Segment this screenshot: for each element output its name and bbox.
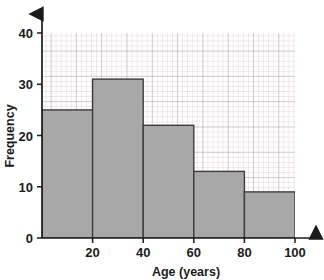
x-tick-label-60: 60 <box>187 245 201 260</box>
x-tick-label-40: 40 <box>136 245 150 260</box>
y-tick-labels: 40 30 20 10 0 <box>19 26 33 246</box>
y-tick-label-10: 10 <box>19 180 33 195</box>
histogram-figure: 40 30 20 10 0 20 40 60 80 100 Age (years… <box>0 0 324 280</box>
y-tick-label-30: 30 <box>19 77 33 92</box>
x-tick-label-100: 100 <box>284 245 306 260</box>
y-tick-label-20: 20 <box>19 129 33 144</box>
x-tick-label-80: 80 <box>237 245 251 260</box>
bar-80-100 <box>244 192 295 238</box>
bar-40-60 <box>143 125 194 238</box>
y-tick-label-40: 40 <box>19 26 33 41</box>
histogram-canvas: 40 30 20 10 0 20 40 60 80 100 Age (years… <box>0 0 324 280</box>
bar-60-80 <box>194 171 245 238</box>
x-tick-label-20: 20 <box>85 245 99 260</box>
y-axis-title: Frequency <box>3 104 17 167</box>
bar-20-40 <box>93 79 144 238</box>
bar-0-20 <box>42 110 93 238</box>
y-tick-label-0: 0 <box>26 231 33 246</box>
x-axis-title: Age (years) <box>152 265 220 279</box>
x-tick-labels: 20 40 60 80 100 <box>85 245 305 260</box>
